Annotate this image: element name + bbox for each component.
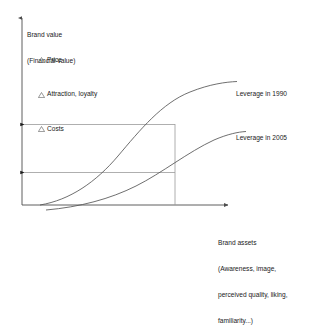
x-axis-label-line-3: perceived quality, liking, xyxy=(218,291,288,300)
x-axis-label-line-4: familiarity...) xyxy=(218,317,288,326)
legend-item-price: Price xyxy=(38,56,97,65)
legend-item-costs: Costs xyxy=(38,125,97,134)
legend-label-price: Price xyxy=(45,56,62,65)
x-axis-label: Brand assets (Awareness, image, perceive… xyxy=(218,222,288,329)
x-axis-label-line-1: Brand assets xyxy=(218,239,288,248)
triangle-up-outline-icon xyxy=(38,56,45,65)
curve-label-1990: Leverage in 1990 xyxy=(236,90,287,99)
legend-item-attraction-loyalty: Attraction, loyalty xyxy=(38,90,97,99)
curve-label-2005: Leverage in 2005 xyxy=(236,134,287,143)
x-axis-label-line-2: (Awareness, image, xyxy=(218,265,288,274)
legend: Price Attraction, loyalty Costs xyxy=(38,30,97,159)
legend-label-attraction-loyalty: Attraction, loyalty xyxy=(45,90,97,99)
triangle-up-outline-icon xyxy=(38,125,45,134)
triangle-up-outline-icon xyxy=(38,90,45,99)
legend-label-costs: Costs xyxy=(45,125,64,134)
